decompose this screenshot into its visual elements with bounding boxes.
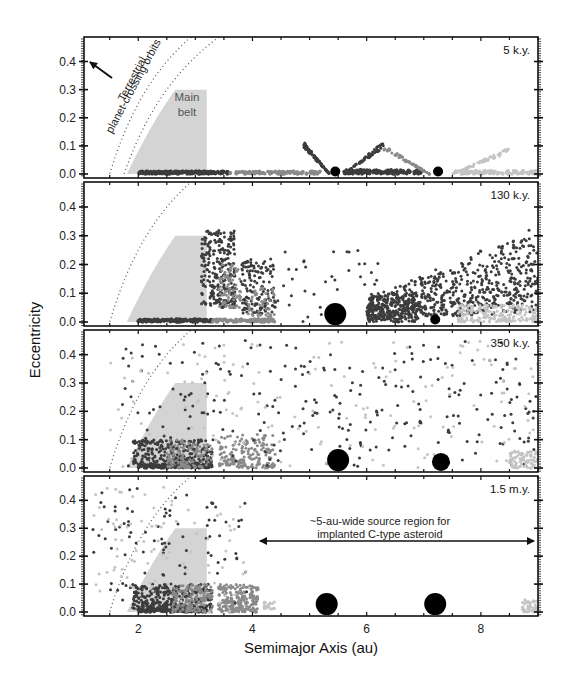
y-tick-label: 0.0 [59,461,76,475]
y-tick-label: 0.2 [59,549,76,563]
svg-text:Main: Main [175,91,200,103]
jupiter-marker [330,167,340,177]
panel-time-label: 5 k.y. [503,44,530,56]
y-tick-label: 0.4 [59,200,76,214]
y-tick-label: 0.4 [59,348,76,362]
jupiter-marker [324,303,346,325]
y-tick-label: 0.2 [59,111,76,125]
y-tick-label: 0.3 [59,376,76,390]
panel-time-label: 1.5 m.y. [490,483,530,495]
y-tick-label: 0.1 [59,433,76,447]
svg-text:belt: belt [178,106,197,118]
y-tick-label: 0.0 [59,167,76,181]
y-tick-label: 0.3 [59,83,76,97]
y-axis-title: Eccentricity [26,301,43,378]
y-tick-label: 0.3 [59,521,76,535]
x-tick-label: 2 [135,622,142,636]
panel-130ky: 0.00.10.20.30.4130 k.y. [59,165,543,329]
jupiter-marker [316,593,338,615]
source-region-label-line1: ~5-au-wide source region for [310,515,451,527]
x-tick-label: 8 [478,622,485,636]
y-tick-label: 0.4 [59,493,76,507]
y-tick-label: 0.2 [59,258,76,272]
jupiter-marker [327,449,349,471]
y-tick-label: 0.0 [59,605,76,619]
y-tick-label: 0.1 [59,286,76,300]
terrestrial-annotation: Terrestrial planet-crossing orbits [90,37,163,135]
y-tick-label: 0.1 [59,577,76,591]
panel-350ky: 0.00.10.20.30.4350 k.y. [59,313,543,475]
source-region-label-line2: implanted C-type asteroid [317,528,442,540]
y-tick-label: 0.1 [59,139,76,153]
x-tick-label: 6 [363,622,370,636]
y-tick-label: 0.4 [59,55,76,69]
saturn-marker [424,593,446,615]
y-tick-label: 0.0 [59,315,76,329]
figure: 0.00.10.20.30.45 k.y. 0.00.10.20.30.4130… [0,0,564,696]
terrestrial-label-line2: planet-crossing orbits [103,37,163,135]
saturn-marker [433,167,443,177]
panel-time-label: 130 k.y. [491,189,530,201]
x-tick-label: 4 [249,622,256,636]
y-tick-label: 0.3 [59,229,76,243]
panel-1-5my: 0.00.10.20.30.41.5 m.y. [59,460,543,619]
source-region-annotation: ~5-au-wide source region for implanted C… [260,515,534,541]
saturn-marker [432,453,450,471]
x-axis-title: Semimajor Axis (au) [244,639,378,656]
panel-time-label: 350 k.y. [491,337,530,349]
terrestrial-arrow [90,62,112,78]
main-belt-region [127,236,207,322]
y-tick-label: 0.2 [59,404,76,418]
x-axis-tick-labels: 2468 [135,622,485,636]
saturn-marker [430,315,440,325]
